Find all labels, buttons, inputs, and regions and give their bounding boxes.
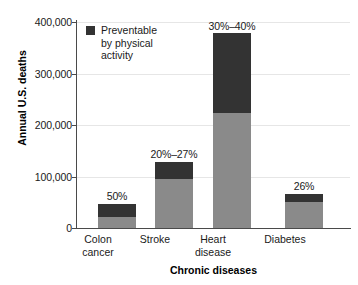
bar-diabetes[interactable]: 26%	[285, 194, 323, 229]
bar-segment-preventable	[285, 194, 323, 203]
x-axis-title: Chronic diseases	[77, 264, 350, 276]
bar-colon-cancer[interactable]: 50%	[98, 204, 136, 228]
x-category-line: disease	[168, 246, 258, 259]
x-axis-line	[76, 228, 351, 229]
bar-heart-disease[interactable]: 30%–40%	[213, 33, 251, 228]
bar-segment-preventable	[98, 204, 136, 217]
bar-segment-remaining	[213, 113, 251, 228]
bar-value-label: 50%	[107, 190, 128, 202]
bar-value-label: 20%–27%	[150, 148, 197, 160]
bar-value-label: 30%–40%	[208, 20, 255, 32]
bar-segment-preventable	[155, 162, 193, 179]
bar-stroke[interactable]: 20%–27%	[155, 162, 193, 228]
x-axis-category-diabetes: Diabetes	[240, 233, 330, 246]
x-category-line: cancer	[53, 246, 143, 259]
legend-swatch-preventable-icon	[86, 26, 95, 35]
chart-figure: Annual U.S. deaths 400,000 300,000 200,0…	[0, 0, 358, 285]
legend: Preventable by physical activity	[86, 24, 157, 62]
bar-segment-remaining	[285, 202, 323, 228]
y-tick-label: 100,000	[35, 171, 72, 183]
y-tick-label: 300,000	[35, 68, 72, 80]
x-category-line: Diabetes	[240, 233, 330, 246]
y-tick-label: 200,000	[35, 119, 72, 131]
bar-segment-remaining	[98, 217, 136, 228]
bar-value-label: 26%	[294, 180, 315, 192]
bar-segment-remaining	[155, 179, 193, 228]
bar-segment-preventable	[213, 33, 251, 112]
legend-label-preventable: Preventable by physical activity	[101, 24, 157, 62]
y-tick-label: 400,000	[35, 16, 72, 28]
